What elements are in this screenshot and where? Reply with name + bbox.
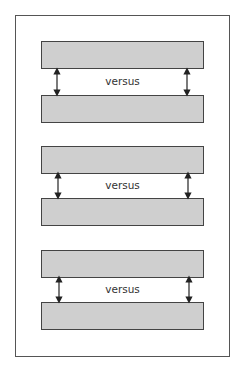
double-arrows: [0, 0, 245, 374]
